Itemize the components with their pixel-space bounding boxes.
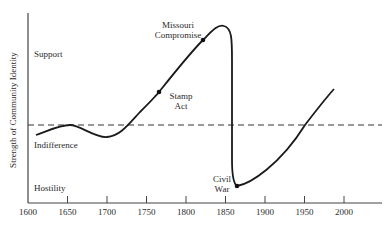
x-tick-label: 1850 (211, 207, 241, 217)
annotation-missouri-compromise: Missouri Compromise (145, 20, 211, 40)
stamp-act-marker (157, 90, 162, 95)
annotation-text: Compromise (145, 30, 211, 40)
y-axis-title: Strength of Community Identity (8, 45, 18, 175)
annotation-text: Act (164, 101, 198, 111)
annotation-text: War (208, 184, 236, 194)
x-tick-label: 1650 (53, 207, 83, 217)
x-tick-label: 2000 (329, 207, 359, 217)
x-tick-label: 1900 (250, 207, 280, 217)
x-tick-label: 1600 (13, 207, 43, 217)
annotation-stamp-act: Stamp Act (164, 91, 198, 111)
x-tick-label: 1950 (290, 207, 320, 217)
x-axis-ticks (68, 196, 345, 203)
x-tick-label: 1750 (132, 207, 162, 217)
x-tick-label: 1800 (171, 207, 201, 217)
annotation-text: Stamp (164, 91, 198, 101)
annotation-text: Missouri (145, 20, 211, 30)
level-label-hostility: Hostility (34, 183, 66, 193)
level-label-indifference: Indifference (34, 140, 78, 150)
x-tick-label: 1700 (92, 207, 122, 217)
level-label-support: Support (34, 49, 63, 59)
annotation-civil-war: Civil War (208, 174, 236, 194)
annotation-text: Civil (208, 174, 236, 184)
